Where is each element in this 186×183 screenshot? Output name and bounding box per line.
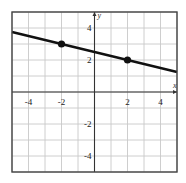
point-marker bbox=[58, 40, 65, 47]
x-tick-label: 4 bbox=[158, 97, 163, 107]
x-tick-label: -2 bbox=[58, 97, 66, 107]
y-tick-label: 4 bbox=[87, 23, 92, 33]
x-axis-label: x bbox=[172, 81, 177, 90]
y-axis-label: y bbox=[97, 11, 102, 20]
x-tick-label: -4 bbox=[25, 97, 33, 107]
y-tick-label: 2 bbox=[87, 55, 92, 65]
y-tick-label: -4 bbox=[84, 151, 92, 161]
coordinate-plane: -4-22442-2-4 x y bbox=[0, 0, 186, 183]
x-tick-label: 2 bbox=[125, 97, 130, 107]
axes bbox=[12, 12, 177, 172]
point-marker bbox=[124, 56, 131, 63]
y-tick-label: -2 bbox=[84, 119, 92, 129]
